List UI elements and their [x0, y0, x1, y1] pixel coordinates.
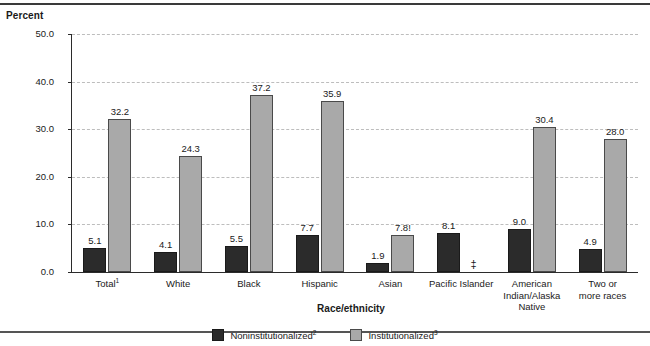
y-tick-label: 10.0 — [10, 218, 54, 229]
bar-value-label: 5.5 — [219, 233, 254, 244]
plot-area: 0.010.020.030.040.050.05.132.24.124.35.5… — [72, 34, 638, 272]
y-tick-label: 40.0 — [10, 76, 54, 87]
y-tick-label: 20.0 — [10, 171, 54, 182]
y-tick-label: 0.0 — [10, 266, 54, 277]
bar-noninstitutionalized[interactable] — [366, 263, 389, 272]
bar-institutionalized[interactable] — [391, 235, 414, 272]
bar-institutionalized[interactable] — [533, 127, 556, 272]
bar-value-label: 37.2 — [243, 82, 280, 93]
bar-value-label: 24.3 — [172, 143, 209, 154]
bar-value-label: 35.9 — [314, 88, 351, 99]
bar-group: 5.132.2 — [72, 34, 143, 272]
y-tick-label: 50.0 — [10, 28, 54, 39]
bar-value-label: 4.9 — [573, 236, 608, 247]
bar-institutionalized[interactable] — [179, 156, 202, 272]
legend-item[interactable]: Noninstitutionalized2 — [212, 329, 316, 341]
y-tick-label: 30.0 — [10, 123, 54, 134]
bar-value-label: 32.2 — [101, 106, 138, 117]
bar-group: 7.735.9 — [284, 34, 355, 272]
legend-label: Noninstitutionalized2 — [230, 330, 316, 341]
x-axis-title-text: Race/ethnicity — [317, 303, 385, 314]
x-tick-label: Two ormore races — [559, 278, 646, 301]
bar-noninstitutionalized[interactable] — [225, 246, 248, 272]
bar-value-label: 7.7 — [290, 222, 325, 233]
bar-institutionalized[interactable] — [250, 95, 273, 272]
bar-institutionalized[interactable] — [108, 119, 131, 272]
legend-swatch-noninstitutionalized — [212, 329, 224, 341]
page-top-rule — [0, 3, 650, 5]
bar-noninstitutionalized[interactable] — [508, 229, 531, 272]
y-tick-mark — [68, 272, 72, 273]
bar-noninstitutionalized[interactable] — [579, 249, 602, 272]
bar-group: 1.97.8! — [355, 34, 426, 272]
bar-value-label: 5.1 — [77, 235, 112, 246]
bar-noninstitutionalized[interactable] — [83, 248, 106, 272]
bar-institutionalized[interactable] — [321, 101, 344, 272]
bar-noninstitutionalized[interactable] — [296, 235, 319, 272]
bar-value-label: 28.0 — [597, 126, 634, 137]
legend-label: Institutionalized3 — [368, 330, 437, 341]
suppressed-marker: ‡ — [456, 258, 491, 270]
bar-institutionalized[interactable] — [604, 139, 627, 272]
bar-value-label: 9.0 — [502, 216, 537, 227]
bar-group: 4.928.0 — [567, 34, 638, 272]
bar-noninstitutionalized[interactable] — [154, 252, 177, 272]
bar-value-label: 1.9 — [360, 250, 395, 261]
bar-group: 4.124.3 — [143, 34, 214, 272]
legend-swatch-institutionalized — [350, 329, 362, 341]
bar-value-label: 4.1 — [148, 239, 183, 250]
bar-value-label: 8.1 — [431, 220, 466, 231]
chart-legend: Noninstitutionalized2Institutionalized3 — [0, 329, 650, 341]
bar-value-label: 30.4 — [526, 114, 563, 125]
x-axis-line — [71, 272, 638, 273]
bar-group: 8.1‡ — [426, 34, 497, 272]
legend-item[interactable]: Institutionalized3 — [350, 329, 437, 341]
bar-group: 5.537.2 — [214, 34, 285, 272]
bar-group: 9.030.4 — [497, 34, 568, 272]
bar-value-label: 7.8! — [384, 222, 421, 233]
y-axis-title: Percent — [6, 10, 43, 21]
